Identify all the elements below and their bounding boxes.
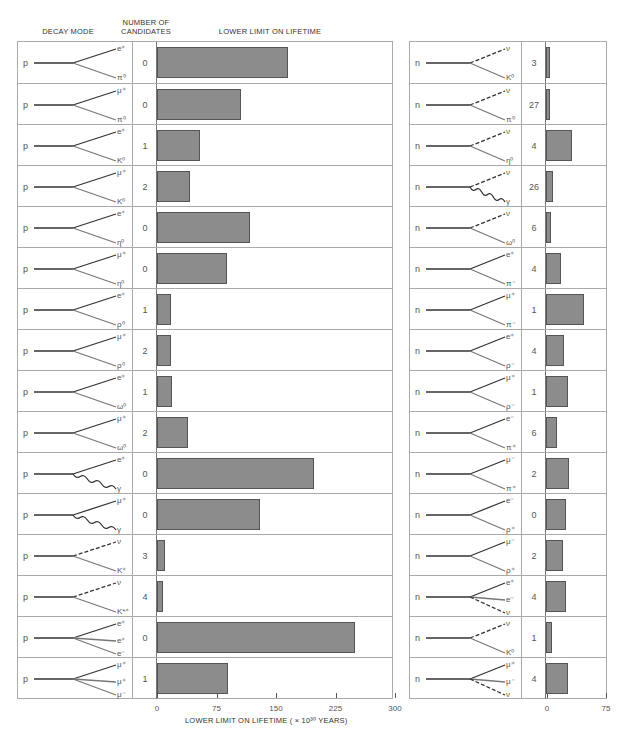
decay-row: ne⁺e⁻ν4 — [410, 575, 606, 617]
bar-cell — [156, 330, 392, 371]
decay-row: ne⁻ρ⁺0 — [410, 493, 606, 535]
x-axis-neutron: 075 — [547, 698, 607, 712]
lifetime-bar — [546, 171, 553, 202]
feynman-diagram-icon — [410, 248, 521, 289]
candidate-count: 26 — [521, 166, 546, 207]
candidate-count: 6 — [521, 412, 546, 453]
feynman-diagram-icon — [18, 412, 132, 453]
x-axis-proton: 075150225300 — [157, 698, 397, 712]
bar-cell — [545, 617, 606, 658]
axis-tick-label: 75 — [212, 704, 221, 713]
decay-row: nνK⁰3 — [410, 42, 606, 83]
candidate-count: 1 — [132, 371, 157, 412]
header-number-of-candidates: NUMBER OF CANDIDATES — [110, 18, 182, 36]
lifetime-bar — [546, 540, 563, 571]
candidate-count: 3 — [521, 42, 546, 83]
decay-mode-cell: pe⁺ω⁰ — [18, 371, 132, 412]
candidate-count: 4 — [521, 330, 546, 371]
lifetime-bar — [157, 458, 314, 489]
feynman-diagram-icon — [18, 494, 132, 535]
neutron-decay-panel: nνK⁰3nνπ⁰27nνη⁰4nνγ26nνω⁰6ne⁺π⁻4nμ⁺π⁻1ne… — [409, 41, 607, 699]
feynman-diagram-icon — [410, 494, 521, 535]
decay-mode-cell: pe⁺γ — [18, 453, 132, 494]
decay-mode-cell: nνK⁰ — [410, 42, 521, 83]
feynman-diagram-icon — [410, 166, 521, 207]
decay-row: pe⁺e⁺e⁻0 — [18, 616, 392, 658]
decay-mode-cell: pe⁺K⁰ — [18, 125, 132, 166]
decay-row: pe⁺K⁰1 — [18, 124, 392, 166]
header-decay-mode: DECAY MODE — [28, 27, 108, 36]
candidate-count: 6 — [521, 207, 546, 248]
lifetime-bar — [157, 294, 171, 325]
lifetime-bar — [157, 581, 163, 612]
bar-cell — [156, 84, 392, 125]
lifetime-bar — [157, 335, 171, 366]
bar-cell — [545, 535, 606, 576]
feynman-diagram-icon — [410, 617, 521, 658]
decay-row: nνπ⁰27 — [410, 83, 606, 125]
feynman-diagram-icon — [18, 658, 132, 699]
proton-decay-panel: pe⁺π⁰0pμ⁺π⁰0pe⁺K⁰1pμ⁺K⁰2pe⁺η⁰0pμ⁺η⁰0pe⁺ρ… — [17, 41, 393, 699]
candidate-count: 1 — [521, 617, 546, 658]
decay-mode-cell: nνω⁰ — [410, 207, 521, 248]
feynman-diagram-icon — [18, 535, 132, 576]
axis-tick — [336, 693, 337, 698]
decay-row: pe⁺γ0 — [18, 452, 392, 494]
axis-tick — [395, 693, 396, 698]
lifetime-bar — [157, 47, 288, 78]
bar-cell — [545, 371, 606, 412]
decay-mode-cell: nμ⁻ρ⁺ — [410, 535, 521, 576]
decay-mode-cell: ne⁻ρ⁺ — [410, 494, 521, 535]
feynman-diagram-icon — [410, 371, 521, 412]
lifetime-bar — [546, 253, 561, 284]
lifetime-bar — [157, 499, 260, 530]
bar-cell — [545, 330, 606, 371]
candidate-count: 2 — [521, 453, 546, 494]
candidate-count: 4 — [521, 125, 546, 166]
candidate-count: 0 — [132, 84, 157, 125]
lifetime-bar — [157, 171, 190, 202]
decay-mode-cell: nνK⁰ — [410, 617, 521, 658]
decay-mode-cell: nμ⁺π⁻ — [410, 289, 521, 330]
bar-cell — [545, 166, 606, 207]
decay-mode-cell: pμ⁺γ — [18, 494, 132, 535]
lifetime-bar — [546, 89, 550, 120]
bar-cell — [156, 166, 392, 207]
feynman-diagram-icon — [18, 330, 132, 371]
decay-mode-cell: nμ⁺ρ⁻ — [410, 371, 521, 412]
lifetime-bar — [546, 47, 550, 78]
bar-cell — [545, 84, 606, 125]
candidate-count: 4 — [521, 576, 546, 617]
bar-cell — [156, 125, 392, 166]
header-candidates-line1: NUMBER OF — [110, 18, 182, 27]
decay-row: pνK*⁺4 — [18, 575, 392, 617]
lifetime-bar — [546, 581, 566, 612]
feynman-diagram-icon — [18, 166, 132, 207]
bar-cell — [156, 658, 392, 699]
lifetime-bar — [157, 89, 241, 120]
lifetime-bar — [546, 622, 552, 653]
decay-row: pe⁺ω⁰1 — [18, 370, 392, 412]
feynman-diagram-icon — [18, 371, 132, 412]
lifetime-bar — [546, 376, 568, 407]
bar-cell — [156, 289, 392, 330]
lifetime-bar — [157, 540, 165, 571]
feynman-diagram-icon — [410, 412, 521, 453]
decay-mode-cell: ne⁺ρ⁻ — [410, 330, 521, 371]
bar-cell — [156, 248, 392, 289]
decay-mode-cell: nμ⁻π⁺ — [410, 453, 521, 494]
lifetime-bar — [157, 130, 200, 161]
axis-tick-label: 300 — [388, 704, 401, 713]
lifetime-bar — [546, 130, 572, 161]
decay-row: pμ⁺K⁰2 — [18, 165, 392, 207]
decay-row: pμ⁺π⁰0 — [18, 83, 392, 125]
candidate-count: 0 — [132, 207, 157, 248]
bar-cell — [156, 617, 392, 658]
bar-cell — [545, 412, 606, 453]
decay-row: nμ⁻π⁺2 — [410, 452, 606, 494]
bar-cell — [545, 576, 606, 617]
candidate-count: 4 — [132, 576, 157, 617]
decay-mode-cell: pμ⁺ρ⁰ — [18, 330, 132, 371]
decay-row: pμ⁺ρ⁰2 — [18, 329, 392, 371]
bar-cell — [156, 535, 392, 576]
